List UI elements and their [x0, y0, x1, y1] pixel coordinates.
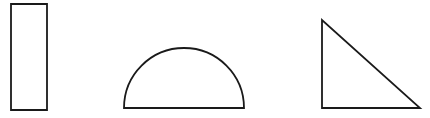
semicircle-shape: [124, 48, 244, 108]
shapes-canvas: [0, 0, 430, 118]
shapes-figure: [0, 0, 430, 118]
right-triangle-shape: [322, 20, 420, 108]
rectangle-shape: [11, 4, 47, 110]
